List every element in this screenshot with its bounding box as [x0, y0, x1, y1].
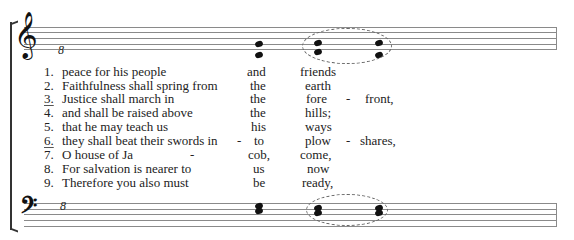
lyric-syllable: the	[250, 92, 266, 106]
lyric-syllable: plow	[305, 134, 331, 148]
octave-mark: 8	[58, 43, 64, 58]
staff-line	[24, 32, 556, 33]
dashed-highlight-ellipse	[306, 194, 388, 226]
octave-mark: 8	[60, 199, 66, 214]
staff-line	[24, 49, 556, 50]
music-score: 𝄞 8 1. peace for his people and friends …	[0, 0, 574, 240]
lyric-syllable: to	[254, 134, 264, 148]
verse-number: 9.	[44, 176, 54, 190]
verse-number: 4.	[44, 106, 54, 120]
lyric-syllable: and	[247, 65, 266, 79]
end-barline	[556, 203, 557, 227]
lyric-syllable: cob,	[248, 148, 270, 162]
staff-line	[24, 209, 556, 210]
staff-line	[24, 214, 556, 215]
lyric-syllable: shares,	[360, 134, 396, 148]
treble-clef-icon: 𝄞	[14, 14, 38, 54]
system-bracket	[10, 22, 12, 230]
verse-number: 8.	[44, 162, 54, 176]
verse-text: they shall beat their swords in	[62, 134, 218, 148]
hyphen: -	[237, 134, 241, 148]
verse-number: 7.	[44, 148, 54, 162]
verse-text: O house of Ja	[62, 148, 133, 162]
verse-text: For salvation is nearer to	[62, 162, 191, 176]
lyric-syllable: come,	[300, 148, 331, 162]
verse-text: and shall be raised above	[62, 106, 193, 120]
lyric-syllable: fore	[306, 92, 327, 106]
verse-number: 5.	[44, 120, 54, 134]
verse-number: 1.	[44, 65, 54, 79]
hyphen: -	[346, 134, 350, 148]
lyric-syllable: us	[253, 162, 265, 176]
verse-text: Justice shall march in	[62, 92, 174, 106]
lyric-syllable: ways	[305, 120, 332, 134]
end-barline	[556, 27, 557, 50]
staff-line	[24, 44, 556, 45]
staff-line	[24, 220, 556, 221]
verse-number: 6.	[44, 134, 54, 148]
hyphen: -	[190, 148, 194, 162]
lyric-syllable: be	[253, 176, 265, 190]
bracket-bottom-hook	[10, 228, 18, 233]
lyric-syllable: hills;	[305, 106, 331, 120]
staff-line	[24, 38, 556, 39]
verse-text: Therefore you also must	[62, 176, 189, 190]
staff-line	[24, 203, 556, 204]
verse-text: peace for his people	[62, 65, 166, 79]
verse-text: that he may teach us	[62, 120, 168, 134]
staff-line	[24, 27, 556, 28]
lyric-syllable: friends	[300, 65, 336, 79]
lyric-syllable: the	[250, 106, 266, 120]
dashed-highlight-ellipse	[302, 28, 392, 64]
staff-line	[24, 226, 556, 227]
note-head	[254, 51, 264, 59]
note-head	[254, 40, 264, 48]
hyphen: -	[346, 92, 350, 106]
lyric-syllable: ready,	[302, 176, 333, 190]
bass-clef-icon: 𝄢	[20, 194, 37, 221]
lyric-syllable: front,	[365, 92, 394, 106]
lyric-syllable: his	[251, 120, 266, 134]
lyric-syllable: now	[307, 162, 329, 176]
verse-number: 3.	[44, 92, 54, 106]
